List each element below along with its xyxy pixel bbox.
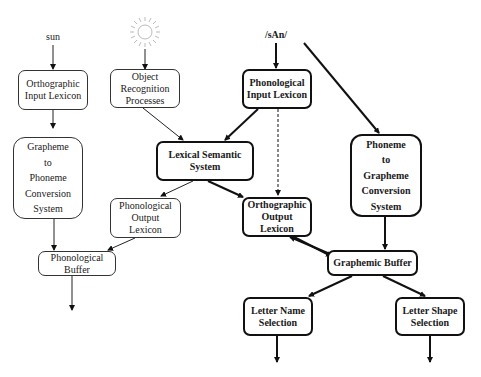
- orthographic-output-lexicon-box: Orthographic Output Lexicon: [242, 197, 312, 237]
- phonological-input-lexicon-box: Phonological Input Lexicon: [242, 69, 312, 109]
- object-recognition-box: Object Recognition Processes: [110, 69, 180, 108]
- letter-name-selection-box: Letter Name Selection: [243, 297, 313, 336]
- lexical-semantic-system-box: Lexical Semantic System: [156, 141, 254, 181]
- sun-picture-icon: [130, 17, 160, 47]
- written-word-input: sun: [38, 31, 68, 42]
- phonological-buffer-box: Phonological Buffer: [38, 251, 116, 276]
- spoken-word-input: /sAn/: [256, 29, 296, 40]
- graphemic-buffer-box: Graphemic Buffer: [327, 250, 418, 276]
- grapheme-to-phoneme-box: Grapheme to Phoneme Conversion System: [13, 137, 83, 219]
- phoneme-to-grapheme-box: Phoneme to Grapheme Conversion System: [350, 134, 422, 217]
- letter-shape-selection-box: Letter Shape Selection: [395, 297, 465, 336]
- orthographic-input-lexicon-box: Orthographic Input Lexicon: [18, 70, 88, 110]
- phonological-output-lexicon-box: Phonological Output Lexicon: [110, 198, 181, 238]
